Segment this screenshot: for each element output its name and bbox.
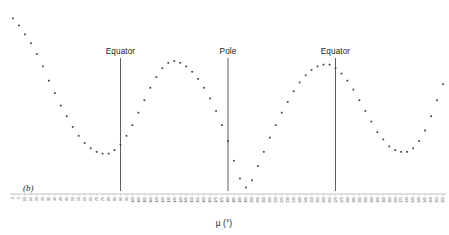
x-tick-label: 245 — [304, 197, 308, 203]
scatter-plot: EquatorPoleEquator 051015202530354045505… — [0, 0, 449, 235]
x-tick-label: 155 — [196, 197, 200, 203]
data-point — [353, 89, 355, 91]
data-point — [203, 87, 205, 89]
data-point — [293, 90, 295, 92]
data-point — [48, 80, 50, 82]
x-tick-label: 315 — [388, 197, 392, 203]
x-tick-label: 90 — [119, 197, 123, 201]
data-point — [155, 76, 157, 78]
data-point — [400, 151, 402, 153]
data-point — [317, 66, 319, 68]
data-point — [376, 131, 378, 133]
marker-label-equator: Equator — [106, 47, 136, 56]
data-point — [18, 25, 20, 27]
x-tick-label: 10 — [23, 197, 27, 201]
x-tick-label: 125 — [161, 197, 165, 203]
x-tick-label: 145 — [184, 197, 188, 203]
x-tick-label: 50 — [71, 197, 75, 201]
data-point — [78, 135, 80, 137]
x-tick-label: 360 — [441, 197, 445, 203]
data-point — [341, 73, 343, 75]
x-tick-label: 95 — [125, 197, 129, 201]
x-tick-label: 105 — [137, 197, 141, 203]
x-tick-label: 205 — [256, 197, 260, 203]
x-tick-label: 235 — [292, 197, 296, 203]
data-point — [257, 165, 259, 167]
data-point — [84, 142, 86, 144]
x-tick-label: 100 — [131, 197, 135, 203]
x-tick-label: 185 — [232, 197, 236, 203]
data-point — [424, 130, 426, 132]
x-tick-label: 190 — [238, 197, 242, 203]
data-point — [36, 53, 38, 55]
data-point — [263, 151, 265, 153]
data-point — [436, 99, 438, 101]
x-tick-label: 300 — [370, 197, 374, 203]
data-point — [215, 110, 217, 112]
x-tick-label: 230 — [286, 197, 290, 203]
x-tick-label: 70 — [95, 197, 99, 201]
x-tick-label: 120 — [155, 197, 159, 203]
data-point — [299, 82, 301, 84]
x-tick-label: 210 — [262, 197, 266, 203]
data-point — [30, 42, 32, 44]
x-tick-label: 220 — [274, 197, 278, 203]
data-point — [132, 124, 134, 126]
data-point — [269, 137, 271, 139]
x-tick-label: 0 — [11, 197, 15, 199]
x-tick-label: 260 — [322, 197, 326, 203]
data-point — [323, 64, 325, 66]
x-tick-label: 200 — [250, 197, 254, 203]
data-point — [418, 140, 420, 142]
data-point — [126, 135, 128, 137]
data-point — [442, 83, 444, 85]
x-tick-label: 130 — [167, 197, 171, 203]
x-tick-label: 140 — [179, 197, 183, 203]
x-tick-label: 225 — [280, 197, 284, 203]
x-tick-label: 320 — [394, 197, 398, 203]
marker-label-equator: Equator — [321, 47, 351, 56]
data-point — [185, 66, 187, 68]
data-point — [430, 115, 432, 117]
data-point — [42, 66, 44, 68]
data-point — [221, 124, 223, 126]
x-tick-label: 75 — [101, 197, 105, 201]
data-point — [251, 179, 253, 181]
data-point — [144, 99, 146, 101]
data-point — [108, 153, 110, 155]
data-point — [281, 112, 283, 114]
data-point — [239, 178, 241, 180]
x-axis-ticks-group: 0510152025303540455055606570758085909510… — [10, 194, 446, 203]
data-point — [173, 60, 175, 62]
x-tick-label: 195 — [244, 197, 248, 203]
x-tick-label: 265 — [328, 197, 332, 203]
data-point — [382, 139, 384, 141]
data-point — [96, 151, 98, 153]
data-point — [370, 121, 372, 123]
data-point — [311, 69, 313, 71]
data-point — [329, 64, 331, 66]
x-tick-label: 25 — [41, 197, 45, 201]
data-point — [275, 124, 277, 126]
data-point — [197, 78, 199, 80]
data-point — [90, 147, 92, 149]
x-tick-label: 35 — [53, 197, 57, 201]
data-point — [54, 92, 56, 94]
x-tick-label: 45 — [65, 197, 69, 201]
x-tick-label: 325 — [399, 197, 403, 203]
data-point — [406, 151, 408, 153]
data-point — [365, 110, 367, 112]
x-tick-label: 170 — [214, 197, 218, 203]
data-point — [191, 71, 193, 73]
x-tick-label: 80 — [107, 197, 111, 201]
x-tick-label: 330 — [405, 197, 409, 203]
x-tick-label: 5 — [17, 197, 21, 199]
x-tick-label: 135 — [173, 197, 177, 203]
x-axis-title: μ (°) — [216, 218, 232, 228]
data-point — [102, 153, 104, 155]
x-tick-label: 150 — [190, 197, 194, 203]
x-tick-label: 55 — [77, 197, 81, 201]
data-point — [347, 80, 349, 82]
x-tick-label: 240 — [298, 197, 302, 203]
x-tick-label: 160 — [202, 197, 206, 203]
